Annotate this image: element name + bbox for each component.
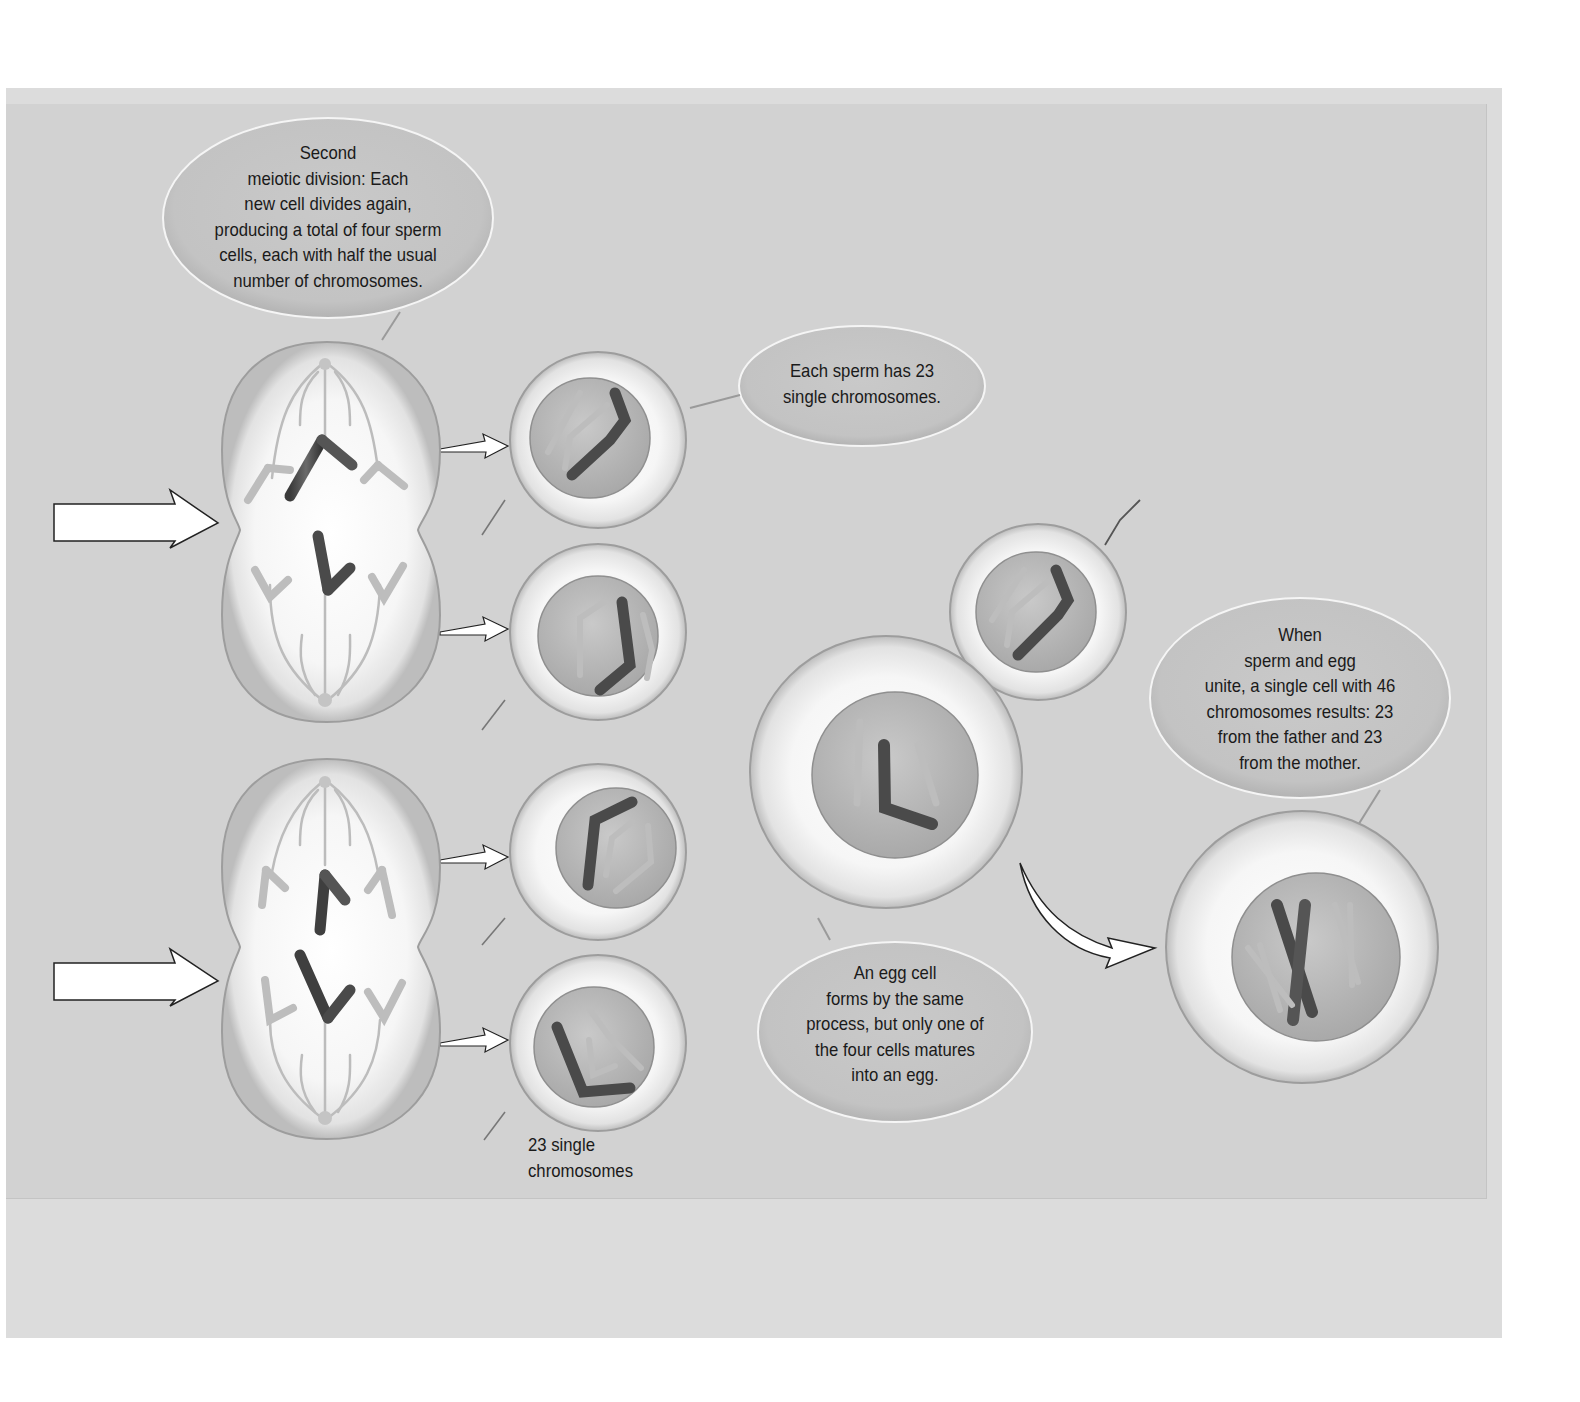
arrow-right-icon — [54, 949, 218, 1006]
arrow-small-icon — [440, 617, 508, 641]
text-line: into an egg. — [785, 1062, 1005, 1088]
zygote-cell — [1166, 811, 1438, 1083]
text-line: 23 single — [528, 1132, 669, 1158]
single-chromosomes-label: 23 single chromosomes — [528, 1132, 669, 1183]
sperm-cell-1 — [482, 352, 686, 535]
text-line: producing a total of four sperm — [196, 217, 460, 243]
sperm-cell-4 — [484, 955, 686, 1140]
dividing-cell-top — [222, 342, 440, 722]
callout-egg-cell-text: An egg cell forms by the same process, b… — [785, 960, 1005, 1088]
text-line: unite, a single cell with 46 — [1177, 673, 1423, 699]
curved-arrow-icon — [1020, 863, 1155, 968]
callout-sperm-23-text: Each sperm has 23 single chromosomes. — [765, 358, 959, 409]
arrow-small-icon — [440, 845, 508, 869]
text-line: the four cells matures — [785, 1037, 1005, 1063]
text-line: chromosomes results: 23 — [1177, 699, 1423, 725]
callout-fertilization-text: When sperm and egg unite, a single cell … — [1177, 622, 1423, 775]
sperm-cell-2 — [482, 544, 686, 730]
callout-second-division-text: Second meiotic division: Each new cell d… — [196, 140, 460, 293]
dividing-cell-bottom — [222, 759, 440, 1139]
text-line: number of chromosomes. — [196, 268, 460, 294]
text-line: single chromosomes. — [765, 384, 959, 410]
text-line: Second — [196, 140, 460, 166]
text-line: process, but only one of — [785, 1011, 1005, 1037]
text-line: meiotic division: Each — [196, 166, 460, 192]
arrow-right-icon — [54, 490, 218, 548]
text-line: sperm and egg — [1177, 648, 1423, 674]
text-line: An egg cell — [785, 960, 1005, 986]
arrow-small-icon — [440, 1028, 508, 1052]
arrow-small-icon — [440, 434, 508, 458]
text-line: Each sperm has 23 — [765, 358, 959, 384]
text-line: from the father and 23 — [1177, 724, 1423, 750]
text-line: from the mother. — [1177, 750, 1423, 776]
text-line: chromosomes — [528, 1158, 669, 1184]
text-line: cells, each with half the usual — [196, 242, 460, 268]
text-line: forms by the same — [785, 986, 1005, 1012]
sperm-cell-3 — [482, 764, 686, 945]
text-line: When — [1177, 622, 1423, 648]
text-line: new cell divides again, — [196, 191, 460, 217]
sperm-cell-fertilizing — [950, 500, 1140, 700]
egg-cell — [750, 636, 1022, 908]
